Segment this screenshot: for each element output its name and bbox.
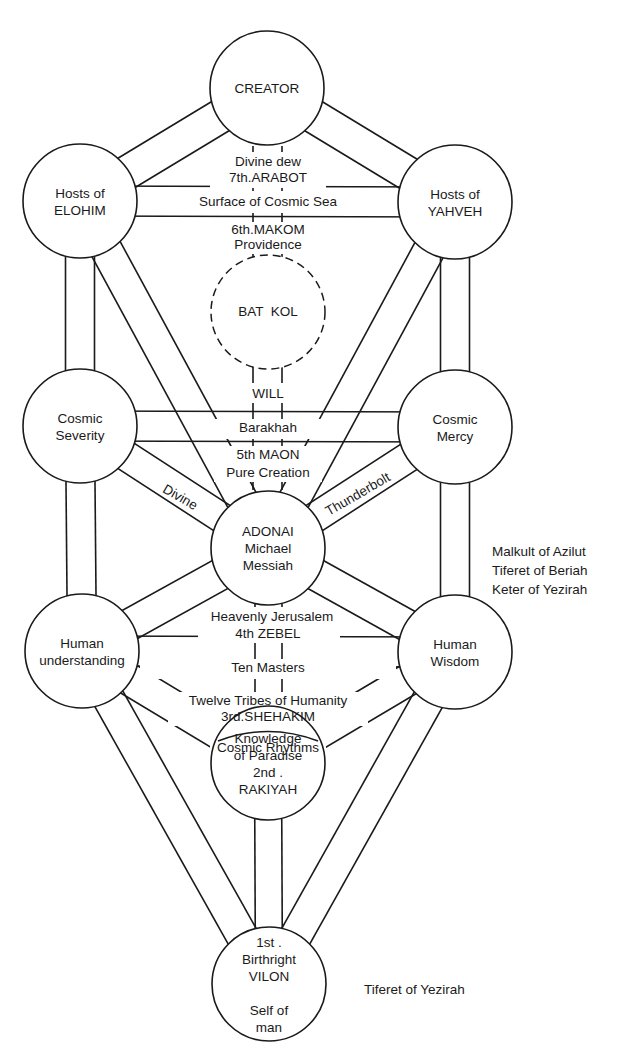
node-label-severity-1: Severity [56,428,105,443]
node-label-knowledge-3: RAKIYAH [239,782,297,797]
node-self: 1st .BirthrightVILONSelf ofman [212,927,326,1041]
label-divine-dew: Divine dew [235,154,301,169]
node-circle-severity [23,369,137,483]
node-label-mercy-0: Cosmic [432,412,477,427]
node-label-wisdom-1: Wisdom [431,654,480,669]
label-will: WILL [252,386,284,401]
node-label-adonai-2: Messiah [243,558,293,573]
label-jerusalem: Heavenly Jerusalem [211,609,333,624]
node-circle-elohim [23,144,137,258]
side-note-malkult: Malkult of Azilut [492,544,586,559]
node-label-elohim-0: Hosts of [55,186,105,201]
node-label-self-1: Birthright [242,952,296,967]
node-label-self-0: 1st . [256,935,282,950]
node-label-self-2: VILON [249,969,290,984]
path-cosmic-sea-edge-a [80,216,455,217]
side-note-tiferet-beriah: Tiferet of Beriah [492,563,588,578]
node-circle-wisdom [398,595,512,709]
node-circle-mercy [398,370,512,484]
node-label-mercy-1: Mercy [437,429,474,444]
node-label-yahveh-0: Hosts of [430,187,480,202]
node-label-elohim-1: ELOHIM [54,203,106,218]
label-makom: 6th.MAKOM [231,222,305,237]
node-label-understanding-1: understanding [39,653,125,668]
node-wisdom: HumanWisdom [398,595,512,709]
node-severity: CosmicSeverity [23,369,137,483]
node-adonai: ADONAIMichaelMessiah [211,491,325,605]
label-zebel: 4th ZEBEL [235,626,301,641]
node-label-wisdom-0: Human [433,637,477,652]
node-elohim: Hosts ofELOHIM [23,144,137,258]
label-cosmic-rhythms: Cosmic Rhythms [217,740,319,755]
node-label-self-4: Self of [250,1003,289,1018]
label-maon: 5th MAON [236,447,299,462]
node-label-knowledge-2: 2nd . [253,765,283,780]
label-providence: Providence [234,237,302,252]
label-arabot: 7th.ARABOT [229,170,307,185]
label-twelve-tribes: Twelve Tribes of Humanity [189,693,348,708]
path-barakhah-edge-b [80,411,455,412]
node-yahveh: Hosts ofYAHVEH [398,145,512,259]
node-circle-yahveh [398,145,512,259]
label-cosmic-sea: Surface of Cosmic Sea [199,194,338,209]
label-thunderbolt: Thunderbolt [323,469,393,518]
node-label-yahveh-1: YAHVEH [428,204,483,219]
node-label-understanding-0: Human [60,636,104,651]
node-mercy: CosmicMercy [398,370,512,484]
side-note-tiferet-yezirah: Tiferet of Yezirah [364,982,465,997]
tree-of-life-diagram: BAT KOLCREATORHosts ofELOHIMHosts ofYAHV… [0,0,629,1056]
node-label-adonai-0: ADONAI [242,524,294,539]
bat-kol-label: BAT KOL [238,304,298,319]
node-understanding: Humanunderstanding [25,594,139,708]
node-label-self-5: man [256,1020,282,1035]
node-label-adonai-1: Michael [245,541,292,556]
node-creator: CREATOR [210,31,324,145]
label-pure-creation: Pure Creation [226,465,309,480]
label-ten-masters: Ten Masters [231,660,305,675]
side-note-keter: Keter of Yezirah [492,582,587,597]
node-label-severity-0: Cosmic [57,411,102,426]
path-barakhah-edge-a [80,441,455,442]
node-circle-understanding [25,594,139,708]
label-barakhah: Barakhah [239,420,297,435]
node-label-creator-0: CREATOR [235,81,300,96]
label-shehakim: 3rd.SHEHAKIM [221,709,315,724]
